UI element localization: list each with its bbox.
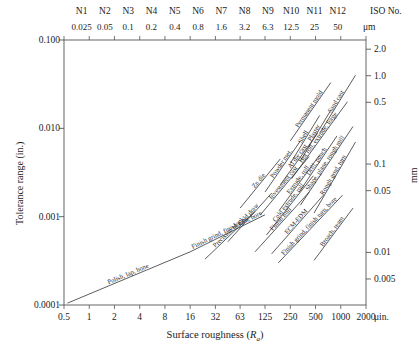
process-line	[240, 159, 280, 208]
iso-grade-N10: N10	[283, 6, 299, 16]
x-tick-label-1000: 1000	[331, 312, 350, 322]
x-tick-label-500: 500	[308, 312, 322, 322]
iso-grade-N5: N5	[169, 6, 181, 16]
x-unit-label: μin.	[374, 312, 389, 322]
iso-grade-N3: N3	[122, 6, 134, 16]
y-axis-title: Tolerance range (in.)	[14, 141, 25, 224]
y-tick-label-0.001: 0.001	[20, 212, 60, 222]
y2-tick-label-2.0: 2.0	[374, 44, 386, 54]
iso-grade-N11: N11	[306, 6, 322, 16]
y2-tick-label-0.1: 0.1	[374, 159, 386, 169]
iso-value-N1: 0.025	[72, 22, 92, 32]
process-line	[255, 192, 309, 252]
iso-value-N10: 12.5	[283, 22, 299, 32]
process-label: Polish, lap, hone	[106, 262, 149, 285]
x-tick-label-1: 1	[87, 312, 92, 322]
iso-value-N7: 1.6	[216, 22, 227, 32]
iso-value-N12: 50	[333, 22, 342, 32]
iso-unit-label: μm	[363, 22, 375, 32]
iso-grade-N4: N4	[146, 6, 158, 16]
x-axis-title: Surface roughness (Ra)	[167, 329, 264, 343]
iso-value-N8: 3.2	[239, 22, 250, 32]
iso-no-label: ISO No.	[370, 6, 402, 16]
iso-value-N4: 0.2	[146, 22, 157, 32]
y2-tick-label-1.0: 1.0	[374, 71, 386, 81]
y-tick-label-0.100: 0.100	[20, 35, 60, 45]
process-line	[67, 252, 190, 303]
x-tick-label-16: 16	[185, 312, 195, 322]
iso-value-N11: 25	[310, 22, 319, 32]
y-tick-label-0.010: 0.010	[20, 123, 60, 133]
x-tick-label-2000: 2000	[357, 312, 376, 322]
iso-grade-N9: N9	[262, 6, 274, 16]
iso-grade-N12: N12	[330, 6, 346, 16]
y-tick-label-0.0001: 0.0001	[20, 300, 60, 310]
iso-value-N2: 0.05	[97, 22, 113, 32]
process-label: Broach, ream	[318, 214, 345, 247]
iso-value-N9: 6.3	[262, 22, 273, 32]
iso-grade-N7: N7	[216, 6, 228, 16]
process-label: Permanent mold	[293, 88, 324, 128]
y2-tick-label-0.05: 0.05	[374, 186, 391, 196]
x-tick-label-250: 250	[283, 312, 297, 322]
x-tick-label-4: 4	[137, 312, 142, 322]
x-tick-label-125: 125	[258, 312, 272, 322]
iso-value-N6: 0.8	[192, 22, 203, 32]
iso-value-N3: 0.1	[123, 22, 134, 32]
iso-value-N5: 0.4	[169, 22, 180, 32]
process-label: Sand cast	[326, 89, 345, 114]
y2-tick-label-0.01: 0.01	[374, 247, 391, 257]
process-label: Finish grind, finish turn, bore	[190, 209, 263, 250]
iso-grade-N2: N2	[99, 6, 111, 16]
iso-grade-N8: N8	[239, 6, 251, 16]
y2-tick-label-0.5: 0.5	[374, 97, 386, 107]
y2-axis-title: mm	[408, 167, 419, 183]
x-tick-label-32: 32	[211, 312, 221, 322]
x-tick-label-8: 8	[163, 312, 168, 322]
process-line	[190, 215, 265, 252]
iso-grade-N1: N1	[76, 6, 88, 16]
x-tick-label-63: 63	[235, 312, 245, 322]
x-tick-label-2: 2	[112, 312, 117, 322]
iso-grade-N6: N6	[192, 6, 204, 16]
y2-tick-label-0.005: 0.005	[374, 274, 395, 284]
x-tick-label-0.5: 0.5	[58, 312, 70, 322]
process-label: Zn die	[250, 171, 266, 189]
